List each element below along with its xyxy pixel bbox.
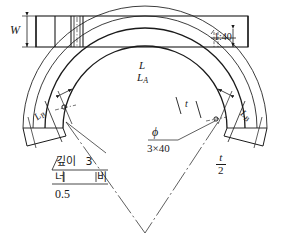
note-depth-value: 3 [86, 155, 93, 168]
t-dimension-ext-left [176, 97, 181, 114]
hole-diameter-symbol: ϕ [152, 126, 158, 138]
note-width-value: 0.5 [55, 188, 70, 200]
engineering-drawing: W 1:40 L LA LB LB t ϕ 3×40 t 2 깊이 3 너 비 … [0, 0, 287, 244]
arc-second-label: LA [137, 72, 148, 85]
half-thickness-fraction: t 2 [216, 152, 226, 176]
half-thickness-label: t 2 [216, 152, 226, 176]
plan-width-label: W [10, 24, 20, 36]
right-end-radial-outer [263, 128, 267, 146]
note-width-label-left: 너 [55, 172, 65, 183]
hole-note-leader [178, 121, 215, 140]
left-radial-division-1 [28, 117, 36, 148]
arc-outer-label: L [139, 60, 145, 71]
left-end-inner-face [63, 128, 66, 136]
plan-taper-label: 1:40 [214, 32, 232, 42]
note-leader-left [66, 122, 106, 153]
hole-spec-label: 3×40 [147, 143, 170, 154]
hole-centerline-right [206, 117, 227, 121]
half-thickness-denominator: 2 [216, 165, 226, 177]
half-thickness-numerator: t [216, 152, 226, 165]
right-end-inner-face [224, 128, 227, 136]
note-depth-label: 깊이 [56, 155, 76, 168]
arc-beam-bottom [63, 46, 227, 128]
note-width-label-right: 비 [97, 172, 107, 183]
left-radial-division-2 [45, 101, 62, 142]
note-depth-row: 깊이 3 [56, 156, 93, 167]
t-dimension-ext-right [196, 101, 201, 118]
right-radial-division-1 [254, 117, 262, 148]
arc-second-label-sub: A [143, 76, 148, 85]
left-end-radial-outer [23, 128, 27, 146]
arc-thickness-label: t [185, 99, 188, 109]
